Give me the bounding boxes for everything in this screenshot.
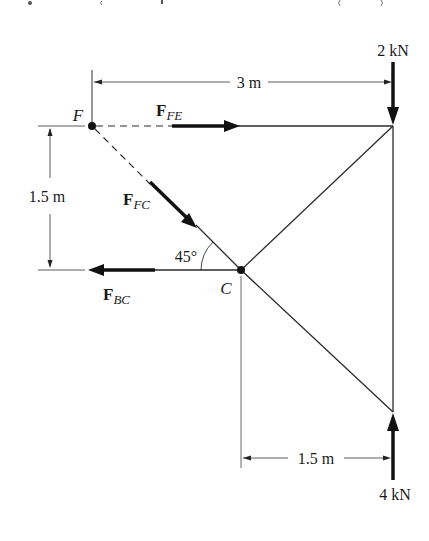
load-label-2kn: 2 kN bbox=[377, 42, 409, 59]
angle-arc bbox=[201, 242, 213, 270]
dimension-bottom-1.5m: 1.5 m bbox=[241, 276, 391, 468]
point-label-c: C bbox=[220, 279, 232, 298]
dimension-left-1.5m: 1.5 m bbox=[29, 126, 85, 270]
member-c-to-top bbox=[241, 126, 393, 270]
truss-diagram: 3 m 1.5 m 1.5 m bbox=[0, 0, 429, 541]
truss-members bbox=[155, 126, 393, 412]
force-label-fe: FFE bbox=[156, 101, 182, 123]
dimension-label-3m: 3 m bbox=[237, 74, 262, 91]
load-arrow-2kn bbox=[387, 62, 399, 125]
force-arrow-fc bbox=[150, 182, 197, 228]
load-arrow-4kn bbox=[387, 413, 399, 480]
dimension-label-1.5m-left: 1.5 m bbox=[29, 188, 66, 205]
angle-label: 45° bbox=[175, 248, 197, 265]
cut-members-dashed bbox=[95, 126, 172, 184]
force-arrow-bc bbox=[88, 264, 155, 276]
member-fc-solid bbox=[196, 225, 241, 270]
cropped-text-fragments bbox=[28, 0, 383, 6]
member-c-to-bottom bbox=[241, 270, 393, 412]
point-label-f: F bbox=[72, 106, 84, 125]
load-label-4kn: 4 kN bbox=[379, 486, 411, 503]
joint-f bbox=[88, 122, 96, 130]
force-label-bc: FBC bbox=[103, 285, 130, 307]
diagram-canvas: 3 m 1.5 m 1.5 m bbox=[0, 0, 429, 541]
force-label-fc: FFC bbox=[123, 190, 150, 212]
joint-c bbox=[237, 266, 245, 274]
dimension-top-3m: 3 m bbox=[92, 70, 392, 122]
dimension-label-1.5m-bottom: 1.5 m bbox=[298, 450, 335, 467]
